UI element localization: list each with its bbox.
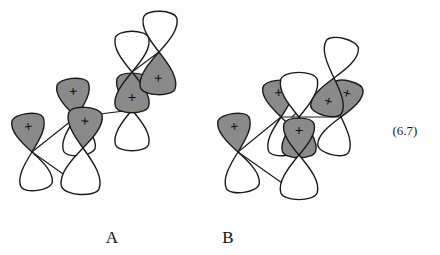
orbital-a1: + [10,111,53,192]
orbital-a1-lower-lobe [16,150,54,193]
orbital-a2-phase-sign: + [68,83,78,100]
structure-label-b: B [222,228,233,247]
orbital-b1-lower-lobe [221,150,261,195]
structure-b: ++++++B [216,34,366,247]
orbital-b4-phase-sign: + [295,122,304,138]
orbital-a3-phase-sign: + [80,113,90,130]
orbital-b4-lower-lobe [280,155,317,200]
orbital-b1: + [216,111,261,195]
orbital-figure: ++++++A++++++B(6.7) [0,0,440,255]
orbital-a6-phase-sign: + [154,70,163,86]
equation-number: (6.7) [393,123,418,138]
orbital-a5-upper-lobe [115,31,149,72]
orbital-diagram-canvas: ++++++A++++++B(6.7) [0,0,440,255]
orbital-b4: + [280,118,317,199]
structure-label-a: A [106,228,119,247]
orbital-a4-lower-lobe [115,110,149,151]
orbital-b6-upper-lobe [317,34,360,82]
orbital-a5-phase-sign: + [128,89,137,105]
orbital-b5-lower-lobe [316,113,357,159]
structure-a: ++++++A [10,11,178,247]
